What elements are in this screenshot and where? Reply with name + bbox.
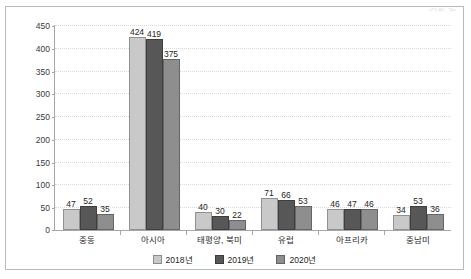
x-axis-label: 유럽 xyxy=(253,233,319,245)
bar: 46 xyxy=(361,209,378,230)
chart-frame: (단위: 건) 050100150200250300350400450 4752… xyxy=(5,6,464,270)
x-axis-labels: 중동아시아태평양, 북미유럽아프리카중남미 xyxy=(54,233,451,245)
bar: 53 xyxy=(295,206,312,230)
bar: 424 xyxy=(129,37,146,230)
legend-swatch-icon xyxy=(153,255,162,264)
bar: 66 xyxy=(278,200,295,230)
bar-value-label: 22 xyxy=(232,210,241,220)
legend-item-3[interactable]: 2020년 xyxy=(276,253,316,265)
y-axis-tick-label: 200 xyxy=(36,135,50,145)
bar: 36 xyxy=(427,214,444,230)
bar-value-label: 35 xyxy=(100,204,109,214)
bar: 419 xyxy=(146,39,163,230)
unit-note: (단위: 건) xyxy=(429,6,457,11)
x-axis-label: 태평양, 북미 xyxy=(186,233,252,245)
bar-value-label: 46 xyxy=(330,199,339,209)
legend-label: 2020년 xyxy=(289,253,316,265)
x-axis-label: 중동 xyxy=(54,233,120,245)
legend-item-1[interactable]: 2018년 xyxy=(153,253,193,265)
bar: 22 xyxy=(229,220,246,230)
bar: 46 xyxy=(327,209,344,230)
bar-value-label: 419 xyxy=(147,29,161,39)
legend-swatch-icon xyxy=(276,255,285,264)
y-axis-tick-label: 450 xyxy=(36,21,50,31)
bar-value-label: 71 xyxy=(264,188,273,198)
y-axis-tick-label: 50 xyxy=(41,203,50,213)
bar-value-label: 424 xyxy=(130,27,144,37)
chart-screenshot: (단위: 건) 050100150200250300350400450 4752… xyxy=(0,0,471,279)
bar-value-label: 34 xyxy=(396,205,405,215)
bar-groups: 475235424419375403022716653464746345336 xyxy=(55,25,451,230)
bar: 71 xyxy=(261,198,278,230)
y-axis-tick-label: 150 xyxy=(36,158,50,168)
bar: 47 xyxy=(63,209,80,230)
x-axis-label: 아프리카 xyxy=(319,233,385,245)
bar-value-label: 46 xyxy=(364,199,373,209)
plot-area: 050100150200250300350400450 475235424419… xyxy=(54,25,451,231)
bar: 375 xyxy=(163,59,180,230)
bar-value-label: 36 xyxy=(430,204,439,214)
y-axis-tick-label: 400 xyxy=(36,44,50,54)
y-axis-tick-label: 300 xyxy=(36,89,50,99)
bar: 30 xyxy=(212,216,229,230)
legend-label: 2018년 xyxy=(166,253,193,265)
bar-group: 424419375 xyxy=(129,25,180,230)
x-axis-label: 중남미 xyxy=(385,233,451,245)
bar-value-label: 53 xyxy=(298,196,307,206)
bar-value-label: 66 xyxy=(281,190,290,200)
bar: 35 xyxy=(97,214,114,230)
bar: 53 xyxy=(410,206,427,230)
bar-value-label: 47 xyxy=(66,199,75,209)
bar: 40 xyxy=(195,212,212,230)
bar-value-label: 47 xyxy=(347,199,356,209)
y-axis-tick-label: 0 xyxy=(45,225,50,235)
bar-value-label: 40 xyxy=(198,202,207,212)
bar-value-label: 52 xyxy=(83,196,92,206)
bar: 47 xyxy=(344,209,361,230)
bar-value-label: 375 xyxy=(164,49,178,59)
bar-group: 403022 xyxy=(195,25,246,230)
y-axis-tick-label: 350 xyxy=(36,67,50,77)
legend-label: 2019년 xyxy=(228,253,255,265)
bar: 52 xyxy=(80,206,97,230)
bar: 34 xyxy=(393,215,410,230)
bar-group: 464746 xyxy=(327,25,378,230)
x-axis-label: 아시아 xyxy=(120,233,186,245)
legend-swatch-icon xyxy=(215,255,224,264)
bar-group: 345336 xyxy=(393,25,444,230)
legend-item-2[interactable]: 2019년 xyxy=(215,253,255,265)
bar-group: 475235 xyxy=(63,25,114,230)
bar-group: 716653 xyxy=(261,25,312,230)
y-axis-tick-label: 100 xyxy=(36,180,50,190)
bar-value-label: 53 xyxy=(413,196,422,206)
bar-value-label: 30 xyxy=(215,206,224,216)
y-axis-tick-label: 250 xyxy=(36,112,50,122)
chart-legend: 2018년2019년2020년 xyxy=(6,253,463,265)
